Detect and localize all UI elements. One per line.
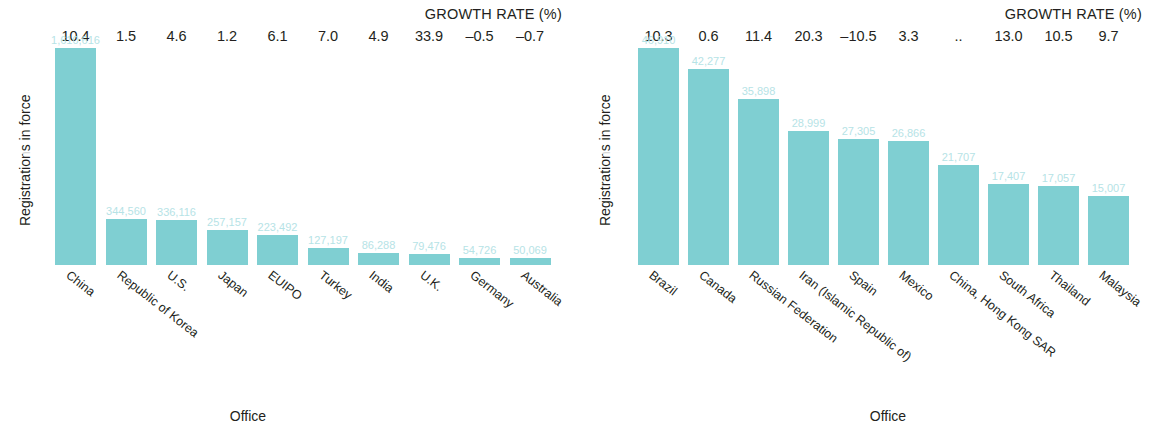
bar-slot: 21,707 [938,48,979,265]
chart-panel-left: GROWTH RATE (%) 10.41.54.61.26.17.04.933… [0,0,580,439]
bar-slot: 17,407 [988,48,1029,265]
x-axis-category-label: India [367,268,397,296]
bar[interactable] [358,253,399,265]
bar-slot: 79,476 [409,48,450,265]
bar[interactable] [510,258,551,265]
bar[interactable] [688,69,729,265]
bar[interactable] [55,48,96,265]
bar-slot: 28,999 [788,48,829,265]
bar-slot: 27,305 [838,48,879,265]
x-axis-category-label: Spain [847,268,881,299]
x-axis-category-label: Brazil [647,268,680,298]
bar[interactable] [1038,186,1079,265]
bar[interactable] [988,184,1029,265]
plot-area: 1,610,616344,560336,116257,157223,492127… [0,48,580,265]
x-axis-category-label: EUIPO [266,268,305,303]
x-axis-category-label: Germany [468,268,517,311]
bar-slot: 86,288 [358,48,399,265]
bar-slot: 35,898 [738,48,779,265]
x-axis-category-label: Canada [697,268,740,306]
bar-slot: 50,069 [510,48,551,265]
x-axis-category-label: Japan [215,268,250,300]
bar-slot: 54,726 [459,48,500,265]
x-axis-category-label: Mexico [897,268,937,303]
bar[interactable] [106,219,147,265]
bar-slot: 17,057 [1038,48,1079,265]
growth-rate-header: GROWTH RATE (%) [425,6,562,22]
x-axis-category-label: Malaysia [1097,268,1144,309]
bar[interactable] [638,48,679,265]
plot-area: 46,91042,27735,89828,99927,30526,86621,7… [580,48,1160,265]
bar[interactable] [459,258,500,265]
bar-slot: 336,116 [156,48,197,265]
bar[interactable] [838,139,879,265]
bar-value-label: 46,910 [612,34,705,46]
bar[interactable] [788,131,829,265]
x-axis-category-label: Russian Federation [747,268,841,346]
x-axis-labels: ChinaRepublic of KoreaU.S.JapanEUIPOTurk… [0,268,580,388]
bar[interactable] [409,254,450,265]
x-axis-category-label: Turkey [316,268,354,302]
bar-value-label: 15,007 [1062,182,1155,194]
chart-panel-right: GROWTH RATE (%) 10.30.611.420.3–10.53.3.… [580,0,1160,439]
x-axis-category-label: China [64,268,98,299]
bar[interactable] [1088,196,1129,265]
x-axis-category-label: Thailand [1047,268,1093,309]
growth-rate-value: –0.7 [501,28,560,44]
x-axis-category-label: U.S. [165,268,193,294]
bar-slot: 223,492 [257,48,298,265]
bar-slot: 46,910 [638,48,679,265]
growth-rate-header: GROWTH RATE (%) [1005,6,1142,22]
bar-value-label: 1,610,616 [29,34,122,46]
bar-slot: 1,610,616 [55,48,96,265]
x-axis-title: Office [598,408,1160,424]
bar-slot: 344,560 [106,48,147,265]
bar[interactable] [207,230,248,265]
x-axis-title: Office [0,408,538,424]
x-axis-category-label: U.K. [417,268,445,294]
bar-slot: 127,197 [308,48,349,265]
bar-slot: 42,277 [688,48,729,265]
growth-rate-value: 9.7 [1079,28,1138,44]
x-axis-labels: BrazilCanadaRussian FederationIran (Isla… [580,268,1160,388]
x-axis-category-label: Australia [518,268,565,309]
bar-value-label: 50,069 [484,244,577,256]
bar-slot: 15,007 [1088,48,1129,265]
